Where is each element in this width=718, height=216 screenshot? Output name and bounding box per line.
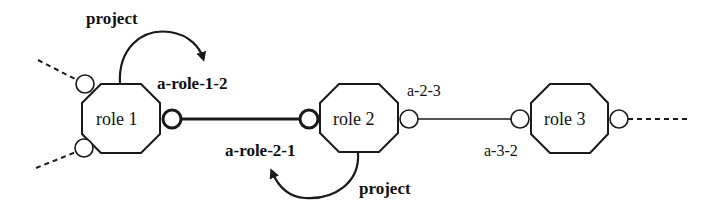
role-3-label: role 3 bbox=[544, 110, 585, 128]
dashed-link-bottom-left bbox=[36, 152, 76, 168]
port-a-3-2 bbox=[511, 110, 529, 128]
a-role-2-1-label: a-role-2-1 bbox=[225, 142, 296, 159]
a-2-3-label: a-2-3 bbox=[407, 83, 441, 99]
port-role3-right bbox=[610, 110, 628, 128]
port-role1-top-left bbox=[76, 75, 94, 93]
a-role-1-2-label: a-role-1-2 bbox=[157, 75, 228, 92]
project-label-top: project bbox=[86, 10, 138, 27]
role-1-label: role 1 bbox=[96, 110, 137, 128]
port-a-role-1-2 bbox=[163, 110, 181, 128]
role-2-label: role 2 bbox=[333, 110, 374, 128]
port-a-2-3 bbox=[400, 110, 418, 128]
a-3-2-label: a-3-2 bbox=[484, 143, 518, 159]
port-a-role-2-1 bbox=[300, 110, 318, 128]
project-label-bottom: project bbox=[359, 180, 411, 197]
dashed-link-top-left bbox=[38, 60, 77, 80]
port-role1-bottom-left bbox=[75, 139, 93, 157]
